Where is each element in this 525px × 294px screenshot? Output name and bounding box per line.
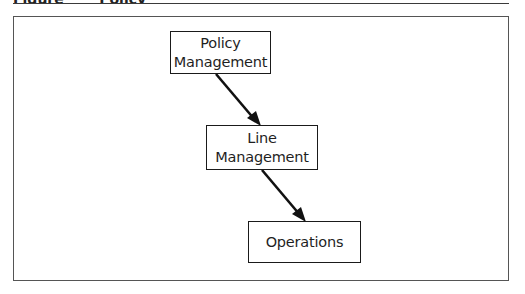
node-label-line: Line xyxy=(215,129,309,148)
top-rule xyxy=(13,3,509,4)
node-operations: Operations xyxy=(248,221,361,263)
node-label-line: Management xyxy=(174,53,268,72)
node-policy-management: Policy Management xyxy=(170,31,271,74)
node-label-line: Policy xyxy=(174,34,268,53)
node-line-management: Line Management xyxy=(206,125,318,170)
node-label-line: Management xyxy=(215,148,309,167)
node-label-line: Operations xyxy=(266,233,344,252)
